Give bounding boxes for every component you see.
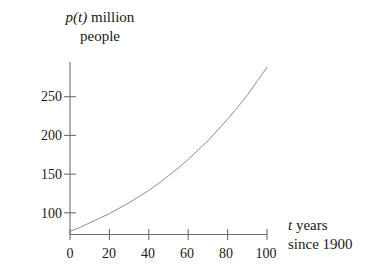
population-growth-chart: p(t) million people t years since 1900 2… bbox=[0, 0, 382, 274]
plot-area bbox=[0, 0, 382, 274]
population-curve bbox=[70, 67, 267, 231]
